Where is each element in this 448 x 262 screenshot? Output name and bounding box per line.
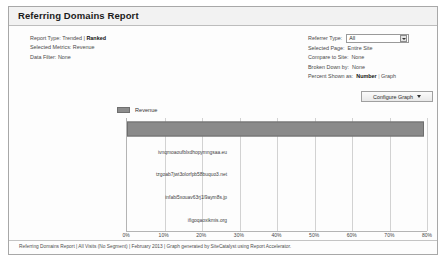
- meta-value-report-type-plain: Trended |: [62, 35, 86, 41]
- setting-label-referrer-type: Referrer Type:: [308, 34, 342, 44]
- meta-row-data-filter: Data Filter: None: [30, 53, 230, 62]
- x-tick-label: 0%: [122, 232, 129, 238]
- meta-label-selected-metrics: Selected Metrics:: [30, 44, 71, 50]
- percent-shown-separator: |: [378, 72, 379, 82]
- configure-graph-label: Configure Graph: [373, 94, 413, 100]
- chart-category-row: ifigoqaoxikmis.org: [127, 208, 427, 231]
- category-label: ivnqmoaoufblxdhopymngsaa.eu: [158, 149, 227, 154]
- meta-row-selected-metrics: Selected Metrics: Revenue: [30, 43, 230, 52]
- referrer-type-value: All: [349, 34, 355, 43]
- caret-down-icon: [417, 95, 421, 98]
- referrer-type-select[interactable]: All: [346, 34, 409, 43]
- setting-broken-down-by: Broken Down by: None: [308, 63, 434, 73]
- x-tick-label: 30%: [234, 232, 244, 238]
- chart-category-row: fakedomain.com: [127, 118, 427, 141]
- legend-swatch-revenue: [117, 107, 130, 113]
- chevron-down-icon[interactable]: [400, 35, 407, 42]
- setting-selected-page: Selected Page: Entire Site: [308, 44, 434, 54]
- configure-graph-button[interactable]: Configure Graph: [361, 91, 433, 102]
- footer-caption: Referring Domains Report | All Visits (N…: [19, 244, 291, 249]
- setting-label-compare-to-site: Compare to Site:: [308, 53, 348, 63]
- percent-shown-graph-option[interactable]: Graph: [381, 72, 396, 82]
- x-tick-label: 60%: [347, 232, 357, 238]
- setting-label-selected-page: Selected Page:: [308, 44, 345, 54]
- chart-category-row: tzgoab7jwt3olorfpb58buquo3.net: [127, 163, 427, 186]
- chart-legend: Revenue: [117, 107, 157, 113]
- report-metadata: Report Type: Trended | Ranked Selected M…: [30, 34, 230, 62]
- meta-value-data-filter: None: [58, 54, 71, 60]
- category-label: ifigoqaoxikmis.org: [188, 217, 227, 222]
- chart-category-row: ivnqmoaoufblxdhopymngsaa.eu: [127, 141, 427, 164]
- chart-bar[interactable]: [127, 122, 424, 137]
- x-tick-label: 50%: [309, 232, 319, 238]
- x-tick-label: 70%: [384, 232, 394, 238]
- meta-row-report-type: Report Type: Trended | Ranked: [30, 34, 230, 43]
- setting-label-percent-shown-as: Percent Shown as:: [308, 72, 353, 82]
- setting-value-selected-page: Entire Site: [348, 44, 373, 54]
- x-tick-label: 10%: [159, 232, 169, 238]
- title-bar: Referring Domains Report: [9, 7, 437, 26]
- percent-shown-number-option[interactable]: Number: [356, 72, 376, 82]
- footer: Referring Domains Report | All Visits (N…: [9, 240, 437, 254]
- x-tick-label: 20%: [196, 232, 206, 238]
- x-tick-label: 80%: [422, 232, 432, 238]
- setting-percent-shown-as: Percent Shown as: Number | Graph: [308, 72, 434, 82]
- setting-compare-to-site: Compare to Site: None: [308, 53, 434, 63]
- meta-value-selected-metrics: Revenue: [73, 44, 95, 50]
- meta-label-report-type: Report Type:: [30, 35, 61, 41]
- setting-referrer-type: Referrer Type: All: [308, 34, 434, 44]
- category-label: tzgoab7jwt3olorfpb58buquo3.net: [156, 172, 227, 177]
- plot-area: fakedomain.comivnqmoaoufblxdhopymngsaa.e…: [126, 118, 427, 232]
- setting-label-broken-down-by: Broken Down by:: [308, 63, 349, 73]
- category-label: infabi5xouav63rj1l9aym8s.jp: [165, 195, 227, 200]
- report-card: Referring Domains Report Report Type: Tr…: [8, 6, 438, 255]
- report-page: Referring Domains Report Report Type: Tr…: [0, 0, 448, 262]
- gridline: [427, 118, 428, 231]
- bar-chart: fakedomain.comivnqmoaoufblxdhopymngsaa.e…: [23, 118, 427, 238]
- setting-value-broken-down-by: None: [352, 63, 365, 73]
- page-title: Referring Domains Report: [18, 10, 139, 21]
- setting-value-compare-to-site: None: [351, 53, 364, 63]
- x-tick-label: 40%: [271, 232, 281, 238]
- settings-panel: Referrer Type: All Selected Page: Entire…: [308, 34, 434, 82]
- chart-category-row: infabi5xouav63rj1l9aym8s.jp: [127, 186, 427, 209]
- meta-label-data-filter: Data Filter:: [30, 54, 56, 60]
- legend-label-revenue: Revenue: [135, 107, 157, 113]
- meta-value-report-type-bold: Ranked: [86, 35, 105, 41]
